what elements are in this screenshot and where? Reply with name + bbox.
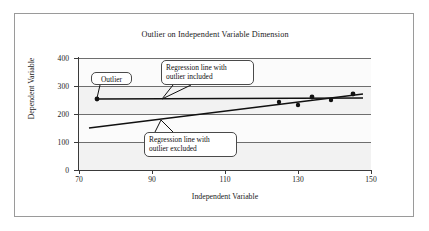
data-point <box>310 95 315 100</box>
callout-included-line1: Regression line with <box>166 63 249 72</box>
leader-line-included-b <box>162 85 191 99</box>
leader-line-excluded-b <box>161 120 173 132</box>
callout-outlier[interactable]: Outlier <box>91 72 132 85</box>
callout-excluded-line2: outlier excluded <box>149 144 232 153</box>
callout-excluded-line1: Regression line with <box>149 135 232 144</box>
data-point <box>296 103 300 107</box>
data-point-outlier <box>95 97 100 102</box>
chart-canvas: Outlier on Independent Variable Dimensio… <box>15 14 415 218</box>
data-point <box>277 100 281 104</box>
data-point <box>329 98 333 102</box>
callout-outlier-text: Outlier <box>101 75 122 84</box>
data-point <box>351 92 356 97</box>
screenshot-root: Outlier on Independent Variable Dimensio… <box>0 0 429 231</box>
leader-line-outlier <box>97 85 100 98</box>
callout-regression-included[interactable]: Regression line with outlier included <box>161 60 254 85</box>
series-overlay <box>15 14 415 218</box>
figure-frame: Outlier on Independent Variable Dimensio… <box>14 13 414 217</box>
leader-line-excluded <box>155 120 161 132</box>
callout-included-line2: outlier included <box>166 72 249 81</box>
callout-regression-excluded[interactable]: Regression line with outlier excluded <box>144 132 237 157</box>
